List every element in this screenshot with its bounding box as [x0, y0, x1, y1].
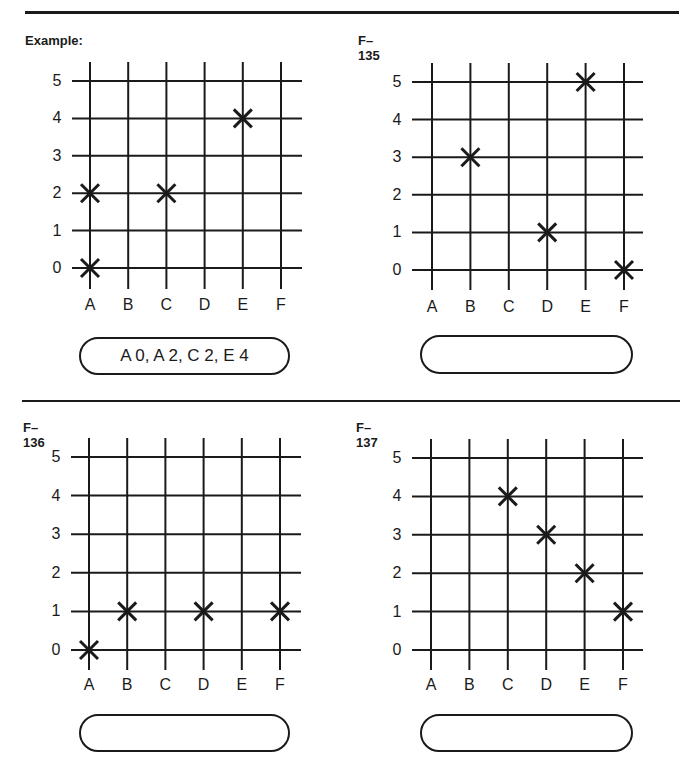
row-label: 1 [387, 604, 407, 620]
row-label: 0 [387, 642, 407, 658]
column-label: C [498, 677, 518, 693]
column-label: A [421, 677, 441, 693]
column-label: E [575, 677, 595, 693]
column-label: F [613, 677, 633, 693]
column-label: D [536, 677, 556, 693]
row-label: 5 [387, 450, 407, 466]
column-label: B [459, 677, 479, 693]
row-label: 3 [387, 527, 407, 543]
coordinate-grid [0, 0, 699, 764]
row-label: 2 [387, 565, 407, 581]
row-label: 4 [387, 488, 407, 504]
answer-box[interactable] [420, 714, 633, 752]
